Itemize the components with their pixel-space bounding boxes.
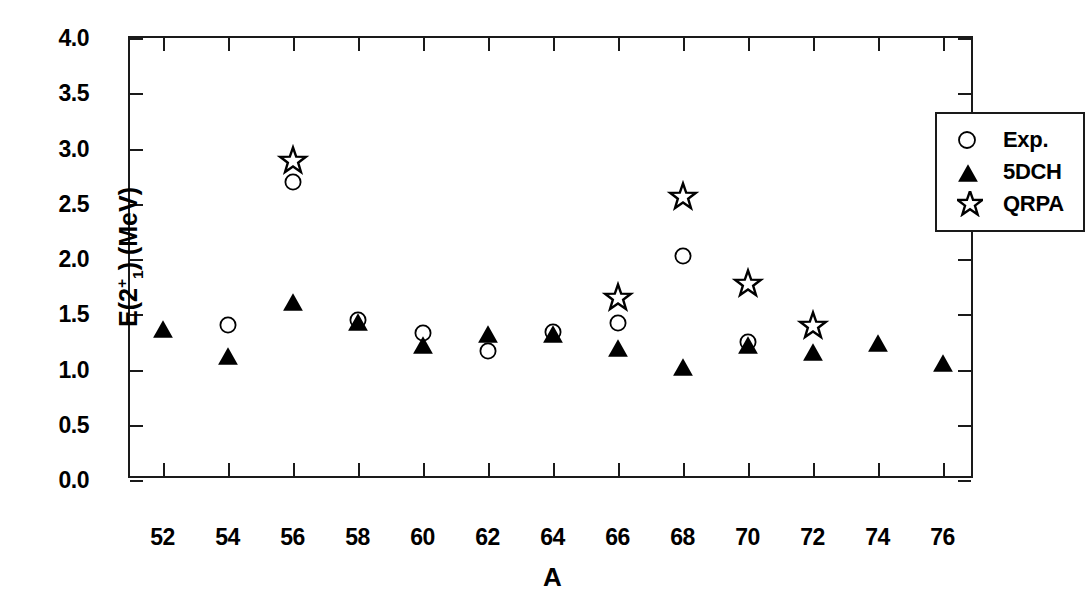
x-tick-label: 60 xyxy=(393,524,453,551)
x-tick-top-62 xyxy=(488,38,490,51)
x-tick-label: 56 xyxy=(263,524,323,551)
point-5DCH-A76 xyxy=(932,351,954,373)
x-tick-top-52 xyxy=(163,38,165,51)
legend-label: 5DCH xyxy=(1003,159,1062,185)
x-tick-66 xyxy=(618,463,620,476)
point-5DCH-A68 xyxy=(672,355,694,377)
x-tick-52 xyxy=(163,463,165,476)
x-tick-label: 62 xyxy=(458,524,518,551)
y-tick-1.0 xyxy=(130,370,143,372)
x-tick-label: 76 xyxy=(913,524,973,551)
legend-item-5DCH: 5DCH xyxy=(937,156,1083,188)
point-QRPA-A70 xyxy=(734,271,761,298)
y-tick-3.5 xyxy=(130,93,143,95)
x-tick-54 xyxy=(228,463,230,476)
y-tick-label: 1.5 xyxy=(19,301,89,328)
point-Exp-A56 xyxy=(283,172,302,191)
legend-item-QRPA: QRPA xyxy=(937,188,1083,220)
point-QRPA-A72 xyxy=(799,313,826,340)
y-tick-right-2.0 xyxy=(958,259,971,261)
x-tick-56 xyxy=(293,463,295,476)
point-QRPA-A68 xyxy=(669,184,696,211)
y-tick-right-0.5 xyxy=(958,425,971,427)
x-tick-58 xyxy=(358,463,360,476)
x-tick-top-74 xyxy=(878,38,880,51)
y-tick-label: 4.0 xyxy=(19,25,89,52)
x-tick-68 xyxy=(683,463,685,476)
y-tick-label: 2.0 xyxy=(19,246,89,273)
x-tick-label: 70 xyxy=(718,524,778,551)
y-tick-right-1.5 xyxy=(958,314,971,316)
x-tick-top-56 xyxy=(293,38,295,51)
point-5DCH-A62 xyxy=(477,322,499,344)
open-star-icon xyxy=(957,191,991,217)
y-tick-label: 0.0 xyxy=(19,467,89,494)
y-tick-right-0.0 xyxy=(958,480,971,482)
plot-area: 0.00.51.01.52.02.53.03.54.0 525456586062… xyxy=(128,36,973,478)
x-axis-title: A xyxy=(130,562,975,590)
y-tick-label: 2.5 xyxy=(19,190,89,217)
point-5DCH-A58 xyxy=(347,310,369,332)
x-tick-top-60 xyxy=(423,38,425,51)
y-tick-3.0 xyxy=(130,149,143,151)
point-5DCH-A64 xyxy=(542,322,564,344)
open-circle-icon xyxy=(957,130,991,150)
x-tick-top-70 xyxy=(748,38,750,51)
legend-item-Exp: Exp. xyxy=(937,124,1083,156)
x-tick-label: 66 xyxy=(588,524,648,551)
x-tick-top-72 xyxy=(813,38,815,51)
y-tick-right-3.5 xyxy=(958,93,971,95)
filled-triangle-icon xyxy=(957,161,991,183)
x-tick-label: 74 xyxy=(848,524,908,551)
legend-label: QRPA xyxy=(1003,191,1064,217)
point-5DCH-A70 xyxy=(737,333,759,355)
x-tick-62 xyxy=(488,463,490,476)
x-tick-72 xyxy=(813,463,815,476)
x-tick-top-76 xyxy=(943,38,945,51)
x-tick-top-58 xyxy=(358,38,360,51)
point-QRPA-A56 xyxy=(279,147,306,174)
legend-label: Exp. xyxy=(1003,127,1048,153)
x-tick-70 xyxy=(748,463,750,476)
point-Exp-A54 xyxy=(218,316,237,335)
x-tick-64 xyxy=(553,463,555,476)
point-QRPA-A66 xyxy=(604,284,631,311)
x-tick-top-66 xyxy=(618,38,620,51)
legend: Exp.5DCHQRPA xyxy=(935,112,1085,232)
point-5DCH-A52 xyxy=(152,317,174,339)
x-tick-top-54 xyxy=(228,38,230,51)
y-tick-label: 3.0 xyxy=(19,135,89,162)
x-tick-74 xyxy=(878,463,880,476)
y-tick-right-4.0 xyxy=(958,38,971,40)
point-Exp-A66 xyxy=(608,314,627,333)
y-tick-label: 1.0 xyxy=(19,356,89,383)
x-tick-label: 64 xyxy=(523,524,583,551)
point-5DCH-A72 xyxy=(802,340,824,362)
x-tick-label: 52 xyxy=(133,524,193,551)
x-tick-label: 54 xyxy=(198,524,258,551)
x-tick-top-64 xyxy=(553,38,555,51)
x-tick-top-68 xyxy=(683,38,685,51)
y-tick-4.0 xyxy=(130,38,143,40)
y-tick-0.0 xyxy=(130,480,143,482)
y-tick-label: 0.5 xyxy=(19,411,89,438)
point-5DCH-A74 xyxy=(867,331,889,353)
y-tick-0.5 xyxy=(130,425,143,427)
point-Exp-A62 xyxy=(478,341,497,360)
x-tick-label: 68 xyxy=(653,524,713,551)
x-tick-76 xyxy=(943,463,945,476)
x-tick-60 xyxy=(423,463,425,476)
x-tick-label: 72 xyxy=(783,524,843,551)
y-axis-title: E(2+1) (MeV) xyxy=(113,187,146,327)
point-5DCH-A60 xyxy=(412,333,434,355)
x-tick-label: 58 xyxy=(328,524,388,551)
y-tick-label: 3.5 xyxy=(19,80,89,107)
point-5DCH-A66 xyxy=(607,336,629,358)
point-5DCH-A54 xyxy=(217,344,239,366)
point-Exp-A68 xyxy=(673,246,692,265)
point-5DCH-A56 xyxy=(282,290,304,312)
y-tick-right-1.0 xyxy=(958,370,971,372)
